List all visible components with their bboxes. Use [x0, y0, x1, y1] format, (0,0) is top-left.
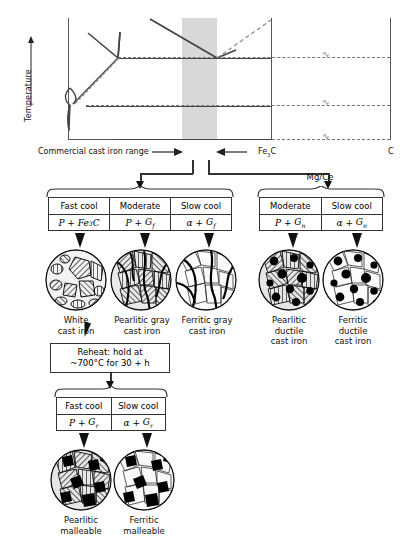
micro-pearlitic-ductile-cast-iron	[258, 249, 320, 311]
cell-slow-cool[interactable]: Slow cool	[112, 398, 166, 414]
phase-p-gr: P + Gr	[57, 415, 112, 431]
fe3c-label: Fe3C	[258, 147, 276, 158]
label-line1: Pearlitic gray	[104, 315, 180, 326]
reheat-box: Reheat: hold at ~700°C for 30 + h	[50, 343, 170, 373]
label-line1: Pearlitic	[253, 315, 325, 326]
cell-slow-cool[interactable]: Slow cool	[171, 198, 231, 214]
reheat-line2: ~700°C for 30 + h	[70, 358, 149, 369]
cell-moderate[interactable]: Moderate	[260, 198, 322, 214]
arrow-white-iron	[75, 233, 85, 248]
connector-left-h	[140, 173, 193, 175]
label-line2: ductile	[317, 326, 389, 337]
micro-ferritic-ductile-cast-iron	[322, 249, 384, 311]
label-line2: malleable	[47, 526, 115, 537]
cell-moderate[interactable]: Moderate	[110, 198, 171, 214]
fe3c-label-text: Fe	[258, 147, 267, 156]
y-axis-arrow	[26, 36, 36, 108]
label-line2: cast iron	[104, 326, 180, 337]
table-phase-row: P + Gr α + Gr	[57, 415, 165, 431]
label-line3: cast iron	[317, 336, 389, 347]
malleable-treatment-table: Fast cool Slow cool P + Gr α + Gr	[56, 397, 166, 431]
micro-ferritic-gray-cast-iron	[175, 249, 237, 311]
cell-fast-cool[interactable]: Fast cool	[49, 198, 110, 214]
mg-ce-label: Mg/Ce	[300, 172, 340, 183]
axis-break-icon-bottom: ∿	[320, 133, 332, 139]
phase-diagram: ∿ ∿ ∿ Temperature Commercial cast iron r…	[0, 0, 420, 160]
carbon-label: C	[388, 147, 394, 156]
label-white-cast-iron: White cast iron	[42, 315, 110, 336]
reheat-line1: Reheat: hold at	[77, 347, 142, 358]
arrow-ferritic-malleable	[142, 433, 152, 448]
label-pearlitic-gray-cast-iron: Pearlitic gray cast iron	[104, 315, 180, 336]
table-header-row: Fast cool Slow cool	[57, 398, 165, 415]
micro-ferritic-malleable	[113, 449, 175, 511]
range-arrow-right	[152, 147, 184, 157]
label-line2: cast iron	[42, 326, 110, 337]
ductile-iron-treatment-table: Moderate Slow cool P + Gn α + Gn	[259, 197, 383, 231]
label-line1: Pearlitic	[47, 515, 115, 526]
arrow-ferritic-gray	[204, 233, 214, 248]
micro-white-cast-iron	[45, 249, 107, 311]
label-ferritic-ductile-cast-iron: Ferritic ductile cast iron	[317, 315, 389, 347]
arrow-pearlitic-malleable	[79, 433, 89, 448]
connector-right-down	[208, 160, 210, 174]
cell-slow-cool[interactable]: Slow cool	[322, 198, 383, 214]
gray-iron-treatment-table: Fast cool Moderate Slow cool P + Fe3C P …	[48, 197, 232, 231]
phase-p-gf: P + Gf	[110, 215, 171, 231]
label-line1: White	[42, 315, 110, 326]
label-line2: ductile	[253, 326, 325, 337]
label-line2: malleable	[110, 526, 178, 537]
phase-p-fe3c: P + Fe3C	[49, 215, 110, 231]
phase-boundaries	[0, 0, 420, 160]
label-line2: cast iron	[170, 326, 244, 337]
phase-p-gn: P + Gn	[260, 215, 322, 231]
table-header-row: Moderate Slow cool	[260, 198, 382, 215]
label-ferritic-gray-cast-iron: Ferritic gray cast iron	[170, 315, 244, 336]
axis-break-icon-top: ∿	[320, 51, 332, 57]
label-pearlitic-ductile-cast-iron: Pearlitic ductile cast iron	[253, 315, 325, 347]
phase-alpha-gr: α + Gr	[112, 415, 166, 431]
table-phase-row: P + Fe3C P + Gf α + Gf	[49, 215, 231, 231]
table-phase-row: P + Gn α + Gn	[260, 215, 382, 231]
range-arrow-left	[216, 147, 248, 157]
label-pearlitic-malleable: Pearlitic malleable	[47, 515, 115, 536]
micro-pearlitic-malleable	[50, 449, 112, 511]
axis-break-icon-mid: ∿	[320, 99, 332, 105]
label-line1: Ferritic	[110, 515, 178, 526]
fe3c-label-tail: C	[271, 147, 277, 156]
micro-pearlitic-gray-cast-iron	[110, 249, 172, 311]
connector-left-down	[192, 160, 194, 174]
label-ferritic-malleable: Ferritic malleable	[110, 515, 178, 536]
label-line3: cast iron	[253, 336, 325, 347]
arrow-pearlitic-gray	[140, 233, 150, 248]
phase-alpha-gn: α + Gn	[322, 215, 383, 231]
label-line1: Ferritic	[317, 315, 389, 326]
table-header-row: Fast cool Moderate Slow cool	[49, 198, 231, 215]
phase-alpha-gf: α + Gf	[171, 215, 231, 231]
arrow-pearlitic-ductile	[288, 233, 298, 248]
label-line1: Ferritic gray	[170, 315, 244, 326]
cell-fast-cool[interactable]: Fast cool	[57, 398, 112, 414]
arrow-ferritic-ductile	[352, 233, 362, 248]
range-label: Commercial cast iron range	[38, 147, 149, 156]
